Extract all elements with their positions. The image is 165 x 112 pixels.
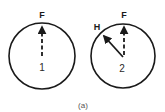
center-label-1: 1	[39, 62, 45, 73]
force-diagram-figure: F 1 F H 2 (a)	[0, 0, 165, 112]
figure-caption: (a)	[78, 101, 88, 110]
vector-label-h-2: H	[94, 22, 101, 32]
diagram-2: F H 2	[91, 10, 155, 88]
vector-label-f-1: F	[39, 10, 45, 20]
vector-label-f-2: F	[121, 10, 127, 20]
force-vector-h-2	[104, 36, 123, 57]
center-label-2: 2	[119, 63, 125, 74]
diagram-1: F 1	[9, 10, 75, 89]
